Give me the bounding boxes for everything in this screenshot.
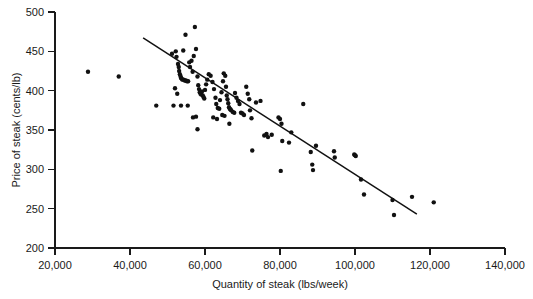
- y-tick-label-300: 300: [26, 163, 44, 175]
- data-point: [266, 135, 270, 139]
- data-point: [189, 59, 193, 63]
- data-point: [196, 83, 200, 87]
- data-point: [247, 97, 251, 101]
- data-point: [301, 102, 305, 106]
- y-tick-label-200: 200: [26, 242, 44, 254]
- data-point: [314, 144, 318, 148]
- y-tick-label-250: 250: [26, 203, 44, 215]
- data-point: [246, 92, 250, 96]
- data-point: [225, 97, 229, 101]
- data-point: [392, 213, 396, 217]
- data-point: [193, 25, 197, 29]
- data-point: [310, 162, 314, 166]
- x-tick-label-40000: 40,000: [113, 259, 147, 271]
- data-point: [186, 103, 190, 107]
- data-point: [287, 140, 291, 144]
- y-axis-group: 200250300350400450500 Price of steak (ce…: [10, 6, 55, 254]
- data-point: [311, 168, 315, 172]
- data-point: [354, 154, 358, 158]
- data-point: [227, 122, 231, 126]
- data-point: [410, 195, 414, 199]
- data-point: [333, 155, 337, 159]
- data-point: [203, 88, 207, 92]
- data-point: [212, 87, 216, 91]
- data-point: [232, 110, 236, 114]
- data-point: [332, 149, 336, 153]
- data-point: [270, 133, 274, 137]
- x-tick-label-100000: 100,000: [335, 259, 375, 271]
- data-point: [225, 93, 229, 97]
- data-point: [254, 100, 258, 104]
- x-tick-label-140000: 140,000: [485, 259, 525, 271]
- x-axis-group: 20,00040,00060,00080,000100,000120,00014…: [38, 248, 525, 290]
- data-point: [173, 86, 177, 90]
- data-point: [179, 103, 183, 107]
- data-point: [86, 70, 90, 74]
- plot-canvas: 200250300350400450500 Price of steak (ce…: [0, 0, 533, 299]
- data-point: [248, 108, 252, 112]
- data-point: [279, 169, 283, 173]
- data-point: [309, 150, 313, 154]
- x-axis-tick-labels: 20,00040,00060,00080,000100,000120,00014…: [38, 259, 525, 271]
- data-point: [154, 103, 158, 107]
- y-axis-title: Price of steak (cents/lb): [10, 73, 22, 188]
- data-point: [250, 148, 254, 152]
- data-point: [202, 96, 206, 100]
- data-point: [171, 103, 175, 107]
- data-point: [222, 114, 226, 118]
- data-point: [218, 98, 222, 102]
- data-point: [237, 102, 241, 106]
- data-point: [244, 85, 248, 89]
- y-tick-label-400: 400: [26, 85, 44, 97]
- data-point: [278, 117, 282, 121]
- data-point: [233, 91, 237, 95]
- data-point: [194, 114, 198, 118]
- data-point: [194, 47, 198, 51]
- data-point: [221, 79, 225, 83]
- data-point: [117, 74, 121, 78]
- data-point: [432, 200, 436, 204]
- x-axis-ticks: [55, 248, 505, 255]
- data-point: [217, 107, 221, 111]
- x-axis-title: Quantity of steak (lbs/week): [212, 278, 348, 290]
- data-point: [192, 54, 196, 58]
- regression-fit-line: [143, 38, 417, 214]
- data-point: [219, 90, 223, 94]
- data-point: [181, 48, 185, 52]
- scatter-plot-figure: 200250300350400450500 Price of steak (ce…: [0, 0, 533, 299]
- data-point: [226, 101, 230, 105]
- data-point: [280, 139, 284, 143]
- x-tick-label-60000: 60,000: [188, 259, 222, 271]
- data-point: [213, 96, 217, 100]
- data-point: [249, 116, 253, 120]
- data-point: [242, 113, 246, 117]
- scatter-points-group: [86, 25, 436, 217]
- data-point: [174, 49, 178, 53]
- data-point: [186, 79, 190, 83]
- data-point: [195, 127, 199, 131]
- y-axis-tick-labels: 200250300350400450500: [26, 6, 44, 254]
- y-tick-label-350: 350: [26, 124, 44, 136]
- data-point: [362, 192, 366, 196]
- data-point: [224, 85, 228, 89]
- y-tick-label-450: 450: [26, 45, 44, 57]
- data-point: [214, 102, 218, 106]
- data-point: [211, 115, 215, 119]
- data-point: [208, 74, 212, 78]
- data-point: [195, 74, 199, 78]
- data-point: [177, 65, 181, 69]
- y-tick-label-500: 500: [26, 6, 44, 18]
- data-point: [258, 99, 262, 103]
- y-axis-ticks: [48, 12, 55, 248]
- data-point: [204, 82, 208, 86]
- x-tick-label-80000: 80,000: [263, 259, 297, 271]
- x-tick-label-20000: 20,000: [38, 259, 72, 271]
- data-point: [215, 117, 219, 121]
- data-point: [223, 74, 227, 78]
- data-point: [183, 33, 187, 37]
- data-point: [175, 92, 179, 96]
- x-tick-label-120000: 120,000: [410, 259, 450, 271]
